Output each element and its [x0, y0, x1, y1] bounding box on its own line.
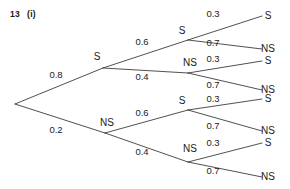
branch-line	[188, 73, 262, 90]
branch-line	[188, 110, 262, 131]
outcome-label-n-NS-NS: NS	[183, 143, 197, 154]
node-labels-group: SNSSNSSNSSNSSNSSNSSNS	[94, 10, 276, 182]
branch-line	[188, 162, 262, 177]
branch-probability-leaf-NSNSS: 0.3	[206, 137, 219, 148]
branch-probability-leaf-SNSNS: 0.7	[206, 79, 219, 90]
outcome-label-leaf-SSS: S	[265, 10, 272, 21]
outcome-label-leaf-SSNS: NS	[261, 43, 275, 54]
probability-tree-svg: 0.80.20.60.40.60.40.30.70.30.70.30.70.30…	[0, 0, 290, 189]
branch-probability-leaf-SSS: 0.3	[206, 8, 219, 19]
tree-diagram-page: 13(i) 0.80.20.60.40.60.40.30.70.30.70.30…	[0, 0, 290, 189]
outcome-label-n-NS: NS	[100, 117, 114, 128]
branch-probability-n-NS-NS: 0.4	[135, 146, 148, 157]
branch-line	[188, 143, 262, 162]
branch-probability-n-S: 0.8	[49, 69, 62, 80]
branch-line	[188, 40, 262, 49]
branch-probability-n-S-NS: 0.4	[135, 71, 148, 82]
branch-probability-leaf-SSNS: 0.7	[206, 37, 219, 48]
outcome-label-leaf-NSSS: S	[265, 93, 272, 104]
branch-probability-leaf-SNSS: 0.3	[206, 53, 219, 64]
branch-probability-leaf-NSNSNS: 0.7	[206, 165, 219, 176]
outcome-label-n-S: S	[94, 51, 101, 62]
branch-probability-leaf-NSSNS: 0.7	[206, 120, 219, 131]
branch-probability-n-S-S: 0.6	[135, 36, 148, 47]
outcome-label-leaf-SNSS: S	[265, 55, 272, 66]
branch-line	[188, 99, 262, 110]
branch-line	[188, 16, 262, 40]
outcome-label-n-S-NS: NS	[183, 57, 197, 68]
outcome-label-leaf-NSNSNS: NS	[261, 171, 275, 182]
outcome-label-n-NS-S: S	[179, 95, 186, 106]
branch-probability-n-NS-S: 0.6	[135, 107, 148, 118]
outcome-label-leaf-NSNSS: S	[265, 137, 272, 148]
branch-line	[188, 61, 262, 73]
branch-probability-n-NS: 0.2	[49, 124, 62, 135]
branch-probability-leaf-NSSS: 0.3	[206, 93, 219, 104]
outcome-label-leaf-NSSNS: NS	[261, 125, 275, 136]
outcome-label-n-S-S: S	[179, 25, 186, 36]
